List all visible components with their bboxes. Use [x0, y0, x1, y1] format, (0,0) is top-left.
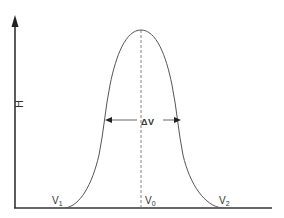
y-axis-label: H: [14, 99, 24, 109]
delta-v-label: ΔV: [141, 117, 154, 127]
y-axis-arrow-icon: [12, 15, 19, 27]
v0-sub: 0: [152, 200, 156, 207]
v0-base: V: [145, 195, 152, 206]
left-arrowhead-icon: [105, 117, 112, 123]
line-profile-diagram: [0, 0, 284, 218]
v2-base: V: [219, 195, 226, 206]
v1-base: V: [52, 195, 59, 206]
v1-label: V1: [52, 196, 63, 209]
v0-label: V0: [145, 196, 156, 209]
v2-label: V2: [219, 196, 230, 209]
v2-sub: 2: [226, 200, 230, 207]
v1-sub: 1: [59, 200, 63, 207]
